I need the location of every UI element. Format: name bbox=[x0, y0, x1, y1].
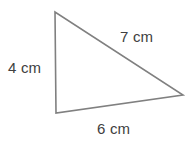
triangle-figure: 4 cm 7 cm 6 cm bbox=[0, 0, 192, 143]
side-label-hypotenuse: 7 cm bbox=[120, 29, 153, 44]
triangle-outline bbox=[55, 12, 183, 113]
side-label-left: 4 cm bbox=[8, 60, 41, 75]
side-label-bottom: 6 cm bbox=[97, 121, 130, 136]
